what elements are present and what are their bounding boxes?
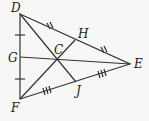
label-G: G xyxy=(8,52,18,64)
label-F: F xyxy=(11,102,19,114)
triangle-DEF xyxy=(20,14,130,99)
triangle-diagram xyxy=(0,0,149,121)
label-D: D xyxy=(11,2,21,14)
ticks-HE xyxy=(101,46,107,53)
label-C: C xyxy=(54,44,63,56)
label-E: E xyxy=(134,58,143,70)
label-H: H xyxy=(78,28,88,40)
label-J: J xyxy=(76,85,81,97)
median-GE xyxy=(20,57,130,64)
ticks-EJ xyxy=(98,69,106,78)
ticks-JF xyxy=(43,86,51,95)
